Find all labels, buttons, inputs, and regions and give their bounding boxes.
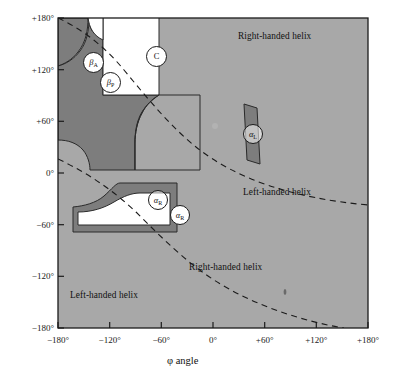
ytick-label-3: 0° (14, 168, 54, 178)
region-label-right-handed-top: Right-handed helix (238, 31, 311, 41)
marker-alpha-r-outer: αR (170, 205, 190, 225)
ytick-label-0: +180° (14, 13, 54, 23)
xtick-label-5: +120° (296, 335, 336, 345)
marker-alpha-r-inner-sub: R (158, 200, 162, 206)
marker-c-base: C (154, 52, 160, 61)
marker-alpha-r-inner: αR (148, 190, 168, 210)
region-label-left-handed-bottom: Left-handed helix (70, 290, 138, 300)
marker-alpha-l-sub: L (253, 134, 257, 140)
marker-beta-a-sub: A (93, 62, 97, 68)
marker-c: C (146, 46, 167, 67)
x-axis-title: φ angle (167, 355, 198, 366)
xtick-label-0: −180° (38, 335, 78, 345)
xtick-label-2: −60° (141, 335, 181, 345)
marker-alpha-l: αL (243, 124, 263, 144)
ytick-label-4: −60° (14, 220, 54, 230)
ytick-label-5: −120° (14, 271, 54, 281)
marker-alpha-r-outer-sub: R (180, 215, 184, 221)
region-label-right-handed-bottom: Right-handed helix (189, 262, 262, 272)
plot-area (58, 17, 368, 328)
ytick-label-6: −180° (14, 323, 54, 333)
xtick-label-3: 0° (193, 335, 233, 345)
ink-speck (284, 289, 287, 295)
xtick-label-6: +180° (348, 335, 388, 345)
ytick-label-1: +120° (14, 65, 54, 75)
xtick-label-4: +60° (245, 335, 285, 345)
ytick-label-2: +60° (14, 116, 54, 126)
region-label-left-handed-mid: Left-handed helix (243, 187, 311, 197)
ink-speck-light (212, 123, 218, 129)
xtick-label-1: −120° (90, 335, 130, 345)
marker-beta-p-sub: P (111, 82, 114, 88)
marker-beta-p: βP (100, 72, 121, 93)
ramachandran-plot (0, 0, 394, 376)
marker-beta-a: βA (83, 52, 104, 73)
